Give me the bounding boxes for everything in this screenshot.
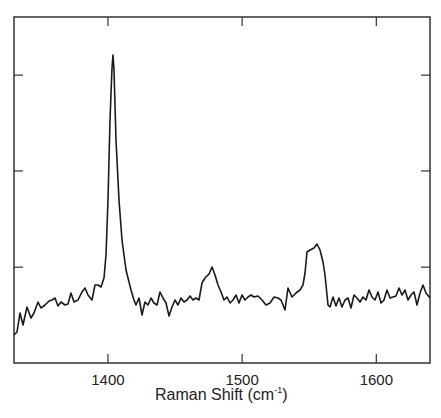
- x-tick-label: 1600: [360, 371, 393, 388]
- x-tick-label: 1400: [91, 371, 124, 388]
- raman-spectrum-chart: [0, 0, 441, 418]
- y-axis-ticks: [14, 75, 430, 267]
- spectrum-line: [14, 55, 430, 335]
- x-axis-ticks: [108, 17, 376, 363]
- plot-frame: [14, 17, 430, 363]
- x-axis-label: Raman Shift (cm-1): [155, 386, 287, 404]
